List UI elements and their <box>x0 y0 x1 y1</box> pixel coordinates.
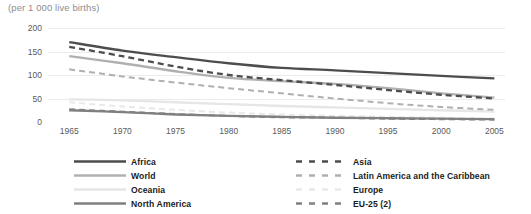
y-axis-tick-150: 150 <box>28 47 42 56</box>
x-axis-tick-labels: 196519701975198019851990199520002005 <box>48 127 505 141</box>
legend-label: Europe <box>353 185 383 195</box>
series-line-africa <box>69 42 494 78</box>
legend-swatch-icon <box>296 155 348 168</box>
x-axis-tick-1965: 1965 <box>60 127 79 136</box>
chart-container: (per 1 000 live births) 200150100500 196… <box>0 0 531 214</box>
y-axis-tick-0: 0 <box>37 118 42 127</box>
series-lines-svg <box>48 28 505 122</box>
legend-label: Latin America and the Caribbean <box>353 171 490 181</box>
legend-item-europe[interactable]: Europe <box>296 183 383 196</box>
legend-swatch-icon <box>296 197 348 210</box>
legend-label: Oceania <box>131 185 165 195</box>
legend-swatch-icon <box>74 155 126 168</box>
y-axis-tick-labels: 200150100500 <box>0 28 42 122</box>
legend-swatch-icon <box>74 197 126 210</box>
x-axis-tick-2005: 2005 <box>485 127 504 136</box>
x-axis-tick-1990: 1990 <box>325 127 344 136</box>
legend-label: North America <box>131 199 191 209</box>
legend-item-north-america[interactable]: North America <box>74 197 191 210</box>
legend-swatch-icon <box>296 169 348 182</box>
plot-area <box>48 28 505 122</box>
y-axis-tick-200: 200 <box>28 24 42 33</box>
chart-legend: AfricaWorldOceaniaNorth AmericaAsiaLatin… <box>74 155 524 211</box>
y-axis-tick-100: 100 <box>28 71 42 80</box>
legend-label: Asia <box>353 157 372 167</box>
legend-label: World <box>131 171 156 181</box>
x-axis-tick-2000: 2000 <box>432 127 451 136</box>
legend-item-world[interactable]: World <box>74 169 156 182</box>
legend-swatch-icon <box>296 183 348 196</box>
x-axis-tick-1975: 1975 <box>166 127 185 136</box>
x-axis-tick-1970: 1970 <box>113 127 132 136</box>
series-line-asia <box>69 47 494 99</box>
legend-label: Africa <box>131 157 156 167</box>
legend-item-eu-25-2[interactable]: EU-25 (2) <box>296 197 391 210</box>
chart-units-label: (per 1 000 live births) <box>8 2 100 13</box>
legend-item-latin-america-and-the-caribbean[interactable]: Latin America and the Caribbean <box>296 169 490 182</box>
legend-swatch-icon <box>74 183 126 196</box>
legend-item-asia[interactable]: Asia <box>296 155 372 168</box>
x-axis-tick-1980: 1980 <box>219 127 238 136</box>
legend-swatch-icon <box>74 169 126 182</box>
legend-item-africa[interactable]: Africa <box>74 155 156 168</box>
x-axis-tick-1985: 1985 <box>272 127 291 136</box>
y-axis-tick-50: 50 <box>33 94 42 103</box>
legend-item-oceania[interactable]: Oceania <box>74 183 165 196</box>
x-axis-tick-1995: 1995 <box>379 127 398 136</box>
legend-label: EU-25 (2) <box>353 199 391 209</box>
